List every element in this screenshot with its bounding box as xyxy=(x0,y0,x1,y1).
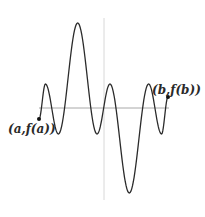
left-endpoint-label: (a,f(a)) xyxy=(8,122,56,136)
function-diagram: (a,f(a)) (b,f(b)) xyxy=(0,0,205,217)
left-endpoint-point xyxy=(37,117,41,121)
right-endpoint-label: (b,f(b)) xyxy=(152,83,201,97)
